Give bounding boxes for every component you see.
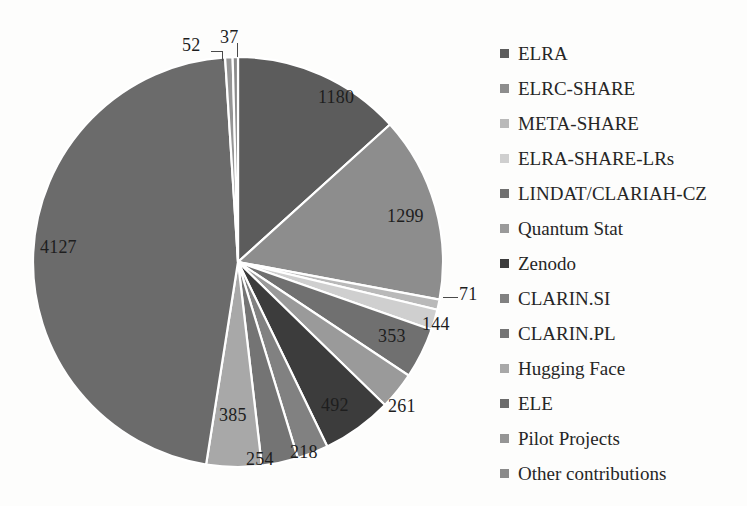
leader-line-meta-share <box>443 297 458 298</box>
legend-item-label: ELRA <box>518 44 568 63</box>
slice-label-zenodo: 492 <box>321 396 349 414</box>
legend-item[interactable]: Zenodo <box>500 246 747 281</box>
slice-label-elra-share-lrs: 144 <box>422 315 450 333</box>
legend-item[interactable]: META-SHARE <box>500 106 747 141</box>
pie-slice[interactable] <box>33 57 238 464</box>
legend-swatch-icon <box>500 294 509 303</box>
legend-item-label: LINDAT/CLARIAH-CZ <box>518 184 707 203</box>
legend-item[interactable]: ELRA-SHARE-LRs <box>500 141 747 176</box>
legend-item[interactable]: Hugging Face <box>500 351 747 386</box>
chart-legend: ELRAELRC-SHAREMETA-SHAREELRA-SHARE-LRsLI… <box>500 36 747 491</box>
legend-item-label: Pilot Projects <box>518 429 620 448</box>
legend-swatch-icon <box>500 364 509 373</box>
legend-item[interactable]: ELRC-SHARE <box>500 71 747 106</box>
legend-swatch-icon <box>500 119 509 128</box>
pie-chart-figure: 1180 1299 71 144 353 261 492 218 254 385… <box>0 0 747 506</box>
legend-item-label: META-SHARE <box>518 114 639 133</box>
legend-item-label: CLARIN.PL <box>518 324 616 343</box>
slice-label-meta-share: 71 <box>459 285 477 303</box>
legend-item[interactable]: LINDAT/CLARIAH-CZ <box>500 176 747 211</box>
legend-swatch-icon <box>500 259 509 268</box>
legend-swatch-icon <box>500 49 509 58</box>
slice-label-elrc-share: 1299 <box>387 207 424 225</box>
legend-item-label: ELRA-SHARE-LRs <box>518 149 674 168</box>
legend-swatch-icon <box>500 434 509 443</box>
legend-item-label: Other contributions <box>518 464 666 483</box>
legend-item-label: Quantum Stat <box>518 219 623 238</box>
legend-item[interactable]: ELE <box>500 386 747 421</box>
slice-label-clarin-pl: 254 <box>246 450 274 468</box>
legend-item[interactable]: Other contributions <box>500 456 747 491</box>
slice-label-clarin-si: 218 <box>290 443 318 461</box>
legend-swatch-icon <box>500 84 509 93</box>
legend-swatch-icon <box>500 329 509 338</box>
legend-item[interactable]: CLARIN.SI <box>500 281 747 316</box>
slice-label-ele: 4127 <box>40 238 77 256</box>
legend-item-label: ELRC-SHARE <box>518 79 635 98</box>
slice-label-quantum-stat: 261 <box>388 397 416 415</box>
legend-item[interactable]: ELRA <box>500 36 747 71</box>
legend-item-label: CLARIN.SI <box>518 289 610 308</box>
legend-swatch-icon <box>500 399 509 408</box>
legend-swatch-icon <box>500 154 509 163</box>
slice-label-pilot-projects: 52 <box>182 36 200 54</box>
leader-line-other-contributions <box>237 43 238 57</box>
legend-item-label: ELE <box>518 394 553 413</box>
slice-label-hugging-face: 385 <box>219 406 247 424</box>
leader-line-pilot-projects-tick <box>222 51 223 61</box>
legend-swatch-icon <box>500 469 509 478</box>
legend-item[interactable]: Pilot Projects <box>500 421 747 456</box>
legend-item-label: Zenodo <box>518 254 576 273</box>
slice-label-elra: 1180 <box>318 88 354 106</box>
slice-label-lindat: 353 <box>378 327 406 345</box>
pie-chart-area: 1180 1299 71 144 353 261 492 218 254 385… <box>0 0 480 506</box>
legend-item[interactable]: Quantum Stat <box>500 211 747 246</box>
slice-label-other-contributions: 37 <box>220 28 238 46</box>
legend-item[interactable]: CLARIN.PL <box>500 316 747 351</box>
legend-swatch-icon <box>500 224 509 233</box>
legend-item-label: Hugging Face <box>518 359 625 378</box>
legend-swatch-icon <box>500 189 509 198</box>
